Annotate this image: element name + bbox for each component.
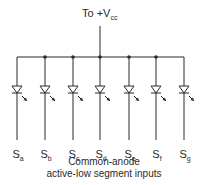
branch-leads <box>17 57 184 140</box>
led-f-icon <box>151 86 166 101</box>
led-a-icon <box>12 86 27 101</box>
led-diodes <box>12 86 194 101</box>
supply-label-text: To +V <box>82 7 110 19</box>
led-d-icon <box>95 86 110 101</box>
led-g-icon <box>179 86 194 101</box>
led-b-icon <box>40 86 55 101</box>
caption-line-2: active-low segment inputs <box>0 168 208 180</box>
led-e-icon <box>124 86 139 101</box>
led-c-icon <box>68 86 83 101</box>
caption-line-1: Common-anode <box>0 156 208 168</box>
supply-label: To +Vcc <box>82 7 117 21</box>
supply-label-subscript: cc <box>110 14 117 21</box>
